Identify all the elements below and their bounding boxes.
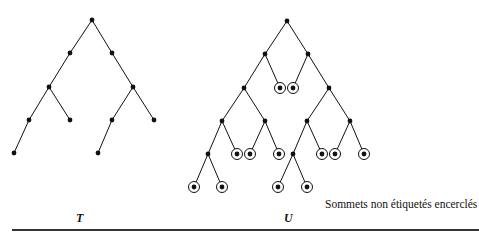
vertex bbox=[348, 119, 353, 124]
tree-edge bbox=[92, 20, 112, 53]
tree-edge bbox=[222, 88, 244, 121]
vertex bbox=[27, 118, 32, 123]
vertex bbox=[220, 119, 225, 124]
vertex bbox=[327, 86, 332, 91]
vertex bbox=[285, 19, 290, 24]
vertex bbox=[68, 118, 73, 123]
vertex bbox=[110, 118, 115, 123]
vertex bbox=[90, 18, 95, 23]
vertex bbox=[263, 52, 268, 57]
vertex bbox=[242, 86, 247, 91]
vertex bbox=[110, 51, 115, 56]
tree-edge bbox=[98, 120, 112, 153]
tree-edge bbox=[265, 21, 287, 54]
unlabeled-vertex bbox=[305, 185, 310, 190]
tree-edge bbox=[49, 53, 70, 87]
tree-t bbox=[12, 18, 157, 156]
unlabeled-vertex bbox=[278, 86, 283, 91]
vertex bbox=[96, 151, 101, 156]
tree-edge bbox=[244, 88, 265, 121]
tree-edge bbox=[14, 120, 29, 153]
tree-edge bbox=[244, 54, 265, 88]
tree-t-label: T bbox=[76, 211, 83, 226]
tree-edge bbox=[112, 53, 133, 87]
tree-edge bbox=[293, 121, 307, 154]
unlabeled-vertex bbox=[220, 185, 225, 190]
tree-edge bbox=[29, 87, 49, 120]
tree-u-label: U bbox=[284, 211, 293, 226]
vertex bbox=[263, 119, 268, 124]
tree-u bbox=[189, 19, 370, 193]
vertex bbox=[12, 151, 17, 156]
tree-edge bbox=[70, 20, 92, 53]
tree-edge bbox=[208, 121, 222, 154]
unlabeled-vertex bbox=[235, 152, 240, 157]
vertex bbox=[152, 118, 157, 123]
vertex bbox=[306, 52, 311, 57]
unlabeled-vertex bbox=[333, 152, 338, 157]
vertex bbox=[131, 85, 136, 90]
legend-caption: Sommets non étiquetés encerclés bbox=[325, 198, 477, 210]
unlabeled-vertex bbox=[291, 86, 296, 91]
unlabeled-vertex bbox=[320, 152, 325, 157]
tree-edge bbox=[308, 54, 329, 88]
unlabeled-vertex bbox=[362, 152, 367, 157]
tree-edge bbox=[329, 88, 350, 121]
unlabeled-vertex bbox=[277, 152, 282, 157]
vertex bbox=[206, 152, 211, 157]
tree-edge bbox=[287, 21, 308, 54]
unlabeled-vertex bbox=[192, 185, 197, 190]
unlabeled-vertex bbox=[248, 152, 253, 157]
tree-edge bbox=[112, 87, 133, 120]
tree-edge bbox=[49, 87, 70, 120]
unlabeled-vertex bbox=[276, 185, 281, 190]
tree-edge bbox=[307, 88, 329, 121]
vertex bbox=[68, 51, 73, 56]
divider-rule bbox=[12, 229, 479, 231]
vertex bbox=[47, 85, 52, 90]
tree-edge bbox=[133, 87, 154, 120]
vertex bbox=[291, 152, 296, 157]
vertex bbox=[305, 119, 310, 124]
